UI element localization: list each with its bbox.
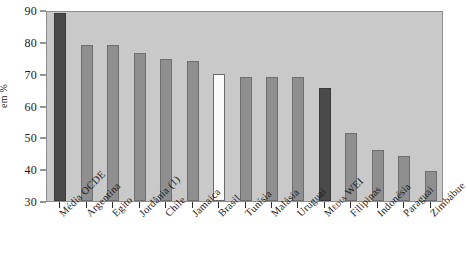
bar [213,74,225,201]
y-tick-label: 40 [25,164,37,176]
y-tick-label: 50 [25,132,37,144]
bar [319,88,331,201]
bar [134,53,146,201]
bar [54,13,66,201]
y-tick-label: 90 [25,5,37,17]
y-tick-label: 60 [25,101,37,113]
x-axis: Média OCDEArgentinaEgitoJordânia (1)Chil… [46,202,443,267]
y-tick-label: 70 [25,69,37,81]
bar [292,77,304,201]
bar [266,77,278,201]
y-tick-label: 80 [25,37,37,49]
plot-area [46,11,443,202]
y-tick-label: 30 [25,196,37,208]
bar [187,61,199,201]
bar [240,77,252,201]
y-axis: em % 30405060708090 [0,0,46,213]
y-axis-title: em % [0,84,9,108]
bar [107,45,119,201]
bars-container [47,12,442,201]
